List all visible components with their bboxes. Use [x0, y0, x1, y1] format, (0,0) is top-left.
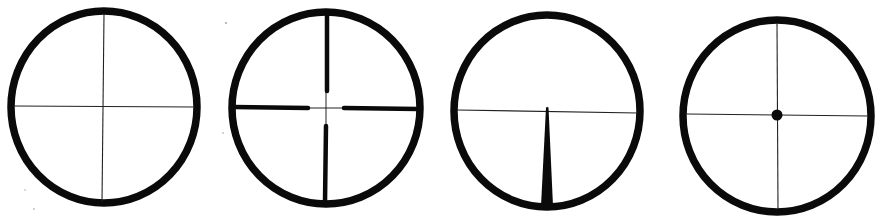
right-post	[344, 108, 418, 109]
reticle-diagram-svg	[0, 0, 882, 217]
vertical-wire	[102, 14, 104, 202]
reticle-fine-crosshair	[11, 11, 197, 203]
reticle-german-post	[454, 15, 640, 207]
horizontal-wire	[14, 106, 194, 107]
reticle-duplex	[232, 12, 420, 204]
bottom-post	[325, 126, 326, 202]
reticle-center-dot	[683, 20, 871, 212]
tapered-post	[541, 107, 553, 206]
center-dot-icon	[772, 110, 783, 121]
reticle-diagram	[0, 0, 882, 217]
left-post	[234, 107, 308, 108]
